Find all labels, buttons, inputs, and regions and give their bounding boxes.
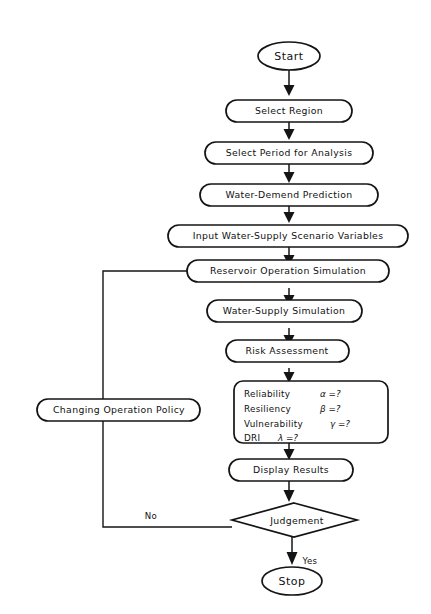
risk-assessment-label: Risk Assessment <box>245 345 328 356</box>
judgement-label: Judgement <box>269 515 324 526</box>
node-select-period[interactable]: Select Period for Analysis <box>205 142 373 164</box>
node-metrics-box[interactable]: Reliability α =? Resiliency β =? Vulnera… <box>234 381 388 443</box>
node-risk-assessment[interactable]: Risk Assessment <box>226 340 349 362</box>
flowchart-canvas: Start Select Region Select Period for An… <box>0 0 431 614</box>
metric-name-vulnerability: Vulnerability <box>244 419 303 429</box>
arrowhead-input-scenario <box>284 212 295 223</box>
node-water-supply-simulation[interactable]: Water-Supply Simulation <box>207 300 362 322</box>
metric-name-dri: DRI <box>244 433 260 443</box>
select-region-label: Select Region <box>255 105 323 116</box>
node-input-scenario-variables[interactable]: Input Water-Supply Scenario Variables <box>168 225 408 247</box>
metric-symbol-dri: λ =? <box>277 433 298 443</box>
input-scenario-label: Input Water-Supply Scenario Variables <box>193 230 384 241</box>
changing-policy-label: Changing Operation Policy <box>53 404 185 415</box>
arrowhead-select-period <box>284 129 295 140</box>
node-start[interactable]: Start <box>258 42 320 70</box>
node-judgement[interactable]: Judgement <box>232 503 357 537</box>
branch-label-no: No <box>145 511 157 521</box>
arrowhead-stop <box>287 552 298 565</box>
node-select-region[interactable]: Select Region <box>226 100 352 122</box>
node-stop[interactable]: Stop <box>262 567 322 595</box>
metric-symbol-resiliency: β =? <box>319 404 341 414</box>
start-label: Start <box>274 50 304 63</box>
arrowhead-select-region <box>284 85 295 96</box>
display-results-label: Display Results <box>253 464 329 475</box>
node-water-demand-prediction[interactable]: Water-Demend Prediction <box>200 184 378 206</box>
water-supply-sim-label: Water-Supply Simulation <box>223 305 345 316</box>
node-reservoir-operation-simulation[interactable]: Reservoir Operation Simulation <box>187 260 389 282</box>
node-changing-operation-policy[interactable]: Changing Operation Policy <box>37 399 200 421</box>
branch-label-yes: Yes <box>302 556 318 566</box>
stop-label: Stop <box>278 575 305 588</box>
metric-symbol-reliability: α =? <box>320 389 341 399</box>
water-demand-label: Water-Demend Prediction <box>226 189 353 200</box>
node-display-results[interactable]: Display Results <box>229 459 353 481</box>
arrowhead-water-demand <box>284 172 295 183</box>
reservoir-sim-label: Reservoir Operation Simulation <box>210 265 366 276</box>
arrowhead-judgement <box>284 490 295 502</box>
metric-name-resiliency: Resiliency <box>244 404 291 414</box>
metric-symbol-vulnerability: γ =? <box>330 419 350 429</box>
metric-name-reliability: Reliability <box>244 389 290 399</box>
select-period-label: Select Period for Analysis <box>226 147 353 158</box>
